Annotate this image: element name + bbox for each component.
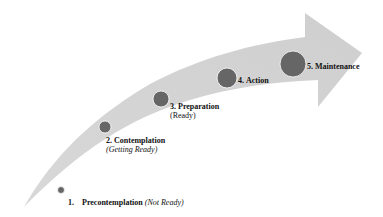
stage-4-label: 4. Action: [238, 76, 269, 85]
stage-2-number: 2.: [106, 136, 112, 145]
stage-4-dot: [217, 68, 237, 88]
stage-5-dot: [280, 51, 306, 77]
stage-3-label: 3. Preparation (Ready): [170, 102, 219, 120]
stages-of-change-diagram: 1. Precontemplation (Not Ready) 2. Conte…: [0, 0, 383, 217]
stage-2-title: Contemplation: [114, 136, 165, 145]
stage-3-number: 3.: [170, 102, 176, 111]
stage-4-number: 4.: [238, 76, 244, 85]
stage-2-dot: [99, 121, 111, 133]
stage-3-dot: [153, 91, 169, 107]
stage-5-label: 5. Maintenance: [307, 62, 359, 71]
stage-1-dot: [58, 187, 65, 194]
stage-3-subtitle: (Ready): [170, 111, 219, 120]
stage-1-label: 1. Precontemplation (Not Ready): [68, 198, 184, 207]
stage-2-label: 2. Contemplation (Getting Ready): [106, 136, 165, 154]
stage-4-title: Action: [246, 76, 269, 85]
stage-5-title: Maintenance: [315, 62, 359, 71]
stage-3-title: Preparation: [178, 102, 219, 111]
stage-5-number: 5.: [307, 62, 313, 71]
stage-1-title: Precontemplation: [82, 198, 143, 207]
stage-1-number: 1.: [68, 198, 74, 207]
stage-1-subtitle: (Not Ready): [145, 198, 184, 207]
stage-2-subtitle: (Getting Ready): [106, 145, 165, 154]
